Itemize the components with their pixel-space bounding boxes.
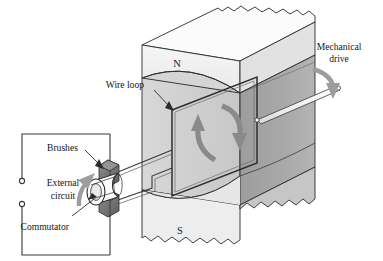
south-pole-label: S xyxy=(177,225,183,236)
circuit-wire-top xyxy=(22,134,110,139)
wire-loop-label: Wire loop xyxy=(106,79,144,90)
north-pole-label: N xyxy=(173,58,181,69)
generator-diagram-figure: N S xyxy=(0,0,383,261)
external-circuit-label-line2: circuit xyxy=(51,190,76,201)
mechanical-drive-label-line2: drive xyxy=(329,53,349,64)
brushes-label: Brushes xyxy=(47,142,78,153)
shaft-loop-pivot xyxy=(255,118,259,122)
external-circuit-label-line1: External xyxy=(47,177,80,188)
circuit-terminal-bottom[interactable] xyxy=(19,201,24,206)
leader-commutator xyxy=(72,199,94,216)
commutator-assembly xyxy=(87,160,122,217)
mechanical-drive-label-line1: Mechanical xyxy=(317,41,362,52)
commutator-label: Commutator xyxy=(21,221,70,232)
circuit-arrow-curve xyxy=(79,183,86,206)
diagram-canvas: N S xyxy=(0,0,383,261)
magnet-block: N S xyxy=(142,6,315,244)
circuit-terminal-top[interactable] xyxy=(19,178,24,183)
